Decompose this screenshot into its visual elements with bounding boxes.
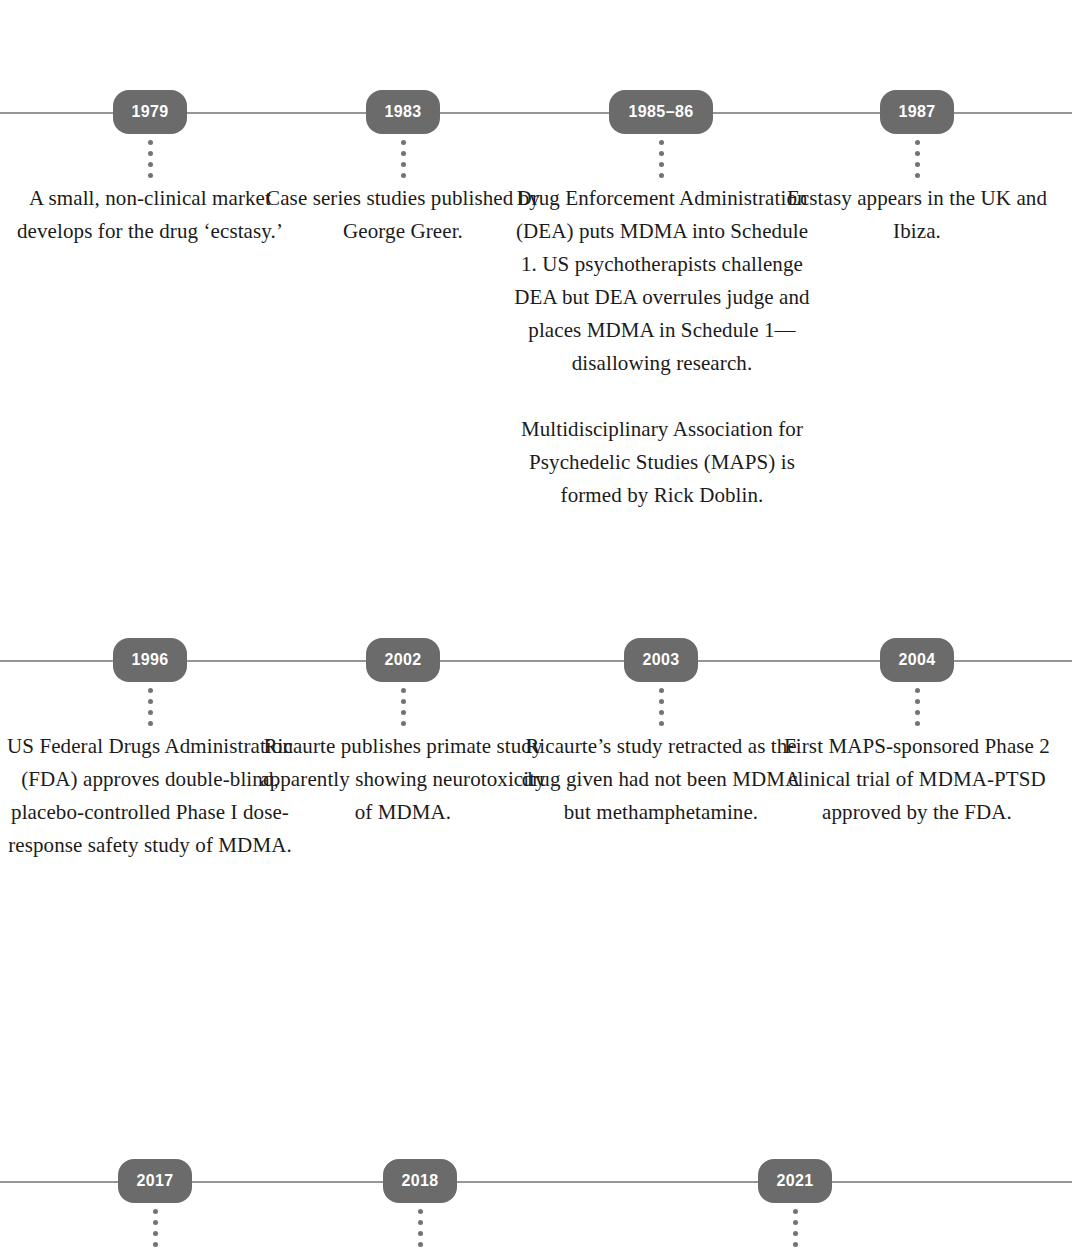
year-node-2003[interactable]: 2003 [624, 638, 698, 726]
year-pill-label[interactable]: 2003 [624, 638, 698, 682]
year-node-2002[interactable]: 2002 [366, 638, 440, 726]
entry-paragraph: Case series studies published by George … [260, 182, 546, 248]
entry-paragraph: US Federal Drugs Administration (FDA) ap… [7, 730, 293, 862]
entry-text-2003: Ricaurte’s study retracted as the drug g… [511, 730, 811, 829]
dotted-connector-icon [153, 1209, 158, 1247]
entry-text-1983: Case series studies published by George … [260, 182, 546, 248]
entry-text-1996: US Federal Drugs Administration (FDA) ap… [7, 730, 293, 862]
entry-paragraph: Ecstasy appears in the UK and Ibiza. [774, 182, 1060, 248]
entry-text-1979: A small, non-clinical market develops fo… [7, 182, 293, 248]
dotted-connector-icon [793, 1209, 798, 1247]
year-pill-label[interactable]: 2021 [758, 1159, 832, 1203]
year-pill-label[interactable]: 1996 [113, 638, 187, 682]
year-pill-label[interactable]: 1983 [366, 90, 440, 134]
year-pill-label[interactable]: 2002 [366, 638, 440, 682]
dotted-connector-icon [401, 688, 406, 726]
entry-text-1985-86: Drug Enforcement Administration (DEA) pu… [512, 182, 812, 512]
dotted-connector-icon [418, 1209, 423, 1247]
entry-text-2004: First MAPS-sponsored Phase 2 clinical tr… [774, 730, 1060, 829]
year-node-1979[interactable]: 1979 [113, 90, 187, 178]
entry-text-2002: Ricaurte publishes primate study apparen… [253, 730, 553, 829]
entry-paragraph: First MAPS-sponsored Phase 2 clinical tr… [774, 730, 1060, 829]
entry-paragraph: Ricaurte publishes primate study apparen… [253, 730, 553, 829]
year-pill-label[interactable]: 1987 [880, 90, 954, 134]
entry-paragraph: A small, non-clinical market develops fo… [7, 182, 293, 248]
entry-paragraph: Drug Enforcement Administration (DEA) pu… [512, 182, 812, 380]
year-node-2018[interactable]: 2018 [383, 1159, 457, 1247]
year-pill-label[interactable]: 2018 [383, 1159, 457, 1203]
timeline-infographic: { "document": { "type": "historical-time… [0, 0, 1072, 1253]
year-pill-label[interactable]: 2017 [118, 1159, 192, 1203]
entry-text-1987: Ecstasy appears in the UK and Ibiza. [774, 182, 1060, 248]
dotted-connector-icon [659, 688, 664, 726]
dotted-connector-icon [148, 140, 153, 178]
dotted-connector-icon [659, 140, 664, 178]
dotted-connector-icon [915, 688, 920, 726]
year-pill-label[interactable]: 2004 [880, 638, 954, 682]
entry-paragraph: Ricaurte’s study retracted as the drug g… [511, 730, 811, 829]
dotted-connector-icon [915, 140, 920, 178]
entry-paragraph: Multidisciplinary Association for Psyche… [512, 413, 812, 512]
year-node-2004[interactable]: 2004 [880, 638, 954, 726]
year-node-1996[interactable]: 1996 [113, 638, 187, 726]
year-node-2021[interactable]: 2021 [758, 1159, 832, 1247]
year-node-1987[interactable]: 1987 [880, 90, 954, 178]
year-pill-label[interactable]: 1985–86 [609, 90, 713, 134]
year-node-2017[interactable]: 2017 [118, 1159, 192, 1247]
year-node-1985-86[interactable]: 1985–86 [609, 90, 713, 178]
dotted-connector-icon [401, 140, 406, 178]
year-pill-label[interactable]: 1979 [113, 90, 187, 134]
dotted-connector-icon [148, 688, 153, 726]
year-node-1983[interactable]: 1983 [366, 90, 440, 178]
